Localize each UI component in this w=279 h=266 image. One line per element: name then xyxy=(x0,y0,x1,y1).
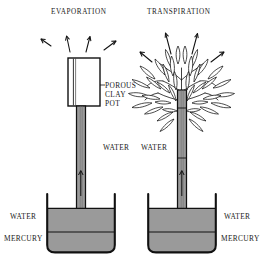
heading-transpiration: TRANSPIRATION xyxy=(147,8,211,16)
heading-evaporation: EVAPORATION xyxy=(51,8,107,16)
vapor-arrow-inner-left xyxy=(66,36,71,52)
vapor-arrow-canopy-outer-left xyxy=(140,52,152,62)
diagram-canvas: EVAPORATION TRANSPIRATION xyxy=(0,0,279,266)
label-porous: POROUS xyxy=(105,81,136,90)
vapor-arrows-left xyxy=(41,36,116,52)
label-water-left-basin: WATER xyxy=(10,212,36,221)
vapor-arrow-inner-right xyxy=(86,37,91,53)
label-mercury-right-basin: MERCURY xyxy=(221,234,260,243)
label-water-right-basin: WATER xyxy=(224,212,250,221)
label-mercury-left-basin: MERCURY xyxy=(4,234,43,243)
vapor-arrow-canopy-outer-right xyxy=(211,52,224,62)
transpiration-evaporation-diagram: EVAPORATION TRANSPIRATION xyxy=(0,0,279,266)
vapor-arrow-outer-left xyxy=(41,39,51,46)
vapor-arrow-outer-right xyxy=(104,41,116,50)
vapor-arrows-right xyxy=(140,33,224,62)
label-water-left-tube: WATER xyxy=(103,143,129,152)
right-water-layer xyxy=(149,208,215,232)
label-water-right-tube: WATER xyxy=(141,143,167,152)
label-pot: POT xyxy=(105,99,120,108)
right-mercury-layer xyxy=(149,232,215,252)
left-water-layer xyxy=(48,208,114,232)
porous-clay-pot xyxy=(68,58,100,106)
label-clay: CLAY xyxy=(105,90,126,99)
left-mercury-layer xyxy=(48,232,114,252)
